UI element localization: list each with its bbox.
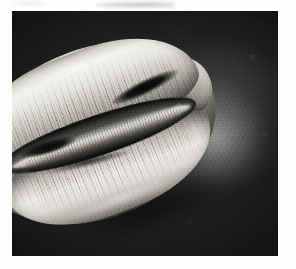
- scanned-page: [0, 0, 296, 269]
- scan-smudge-left-artifact: [6, 0, 46, 7]
- scan-smudge-artifact: [96, 1, 174, 9]
- specimen: [12, 11, 278, 256]
- specimen-body: [12, 11, 242, 256]
- photographic-plate: [12, 11, 278, 256]
